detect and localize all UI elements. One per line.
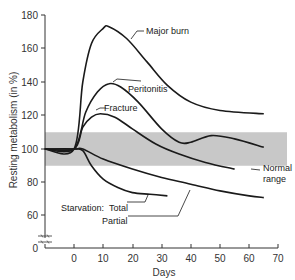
svg-text:40: 40 <box>185 253 197 264</box>
label-major-burn: Major burn <box>146 26 189 36</box>
y-tick-labels: 180 160 140 120 100 80 60 0 <box>21 10 38 254</box>
svg-text:120: 120 <box>21 110 38 121</box>
series-lines <box>45 26 264 198</box>
label-fracture: Fracture <box>104 103 138 113</box>
svg-text:30: 30 <box>156 253 168 264</box>
label-starvation: Starvation: <box>61 203 104 213</box>
svg-text:140: 140 <box>21 77 38 88</box>
y-axis <box>38 15 52 248</box>
metabolism-chart: 180 160 140 120 100 80 60 0 0 10 20 30 4… <box>0 0 295 280</box>
label-normal-1: Normal <box>263 163 292 173</box>
label-partial: Partial <box>102 216 128 226</box>
svg-text:50: 50 <box>214 253 226 264</box>
svg-text:60: 60 <box>243 253 255 264</box>
svg-text:10: 10 <box>97 253 109 264</box>
svg-text:0: 0 <box>71 253 77 264</box>
svg-text:80: 80 <box>27 177 39 188</box>
label-peritonitis: Peritonitis <box>128 84 168 94</box>
svg-text:0: 0 <box>32 243 38 254</box>
svg-text:100: 100 <box>21 144 38 155</box>
label-total: Total <box>109 203 128 213</box>
label-normal-2: range <box>263 174 286 184</box>
svg-text:20: 20 <box>127 253 139 264</box>
x-axis-title: Days <box>153 267 176 278</box>
y-axis-title: Resting metabolism (in %) <box>8 72 19 189</box>
svg-text:180: 180 <box>21 10 38 21</box>
x-tick-labels: 0 10 20 30 40 50 60 70 <box>71 253 284 264</box>
svg-text:70: 70 <box>272 253 284 264</box>
svg-text:160: 160 <box>21 43 38 54</box>
svg-text:60: 60 <box>27 210 39 221</box>
x-axis <box>45 244 278 248</box>
